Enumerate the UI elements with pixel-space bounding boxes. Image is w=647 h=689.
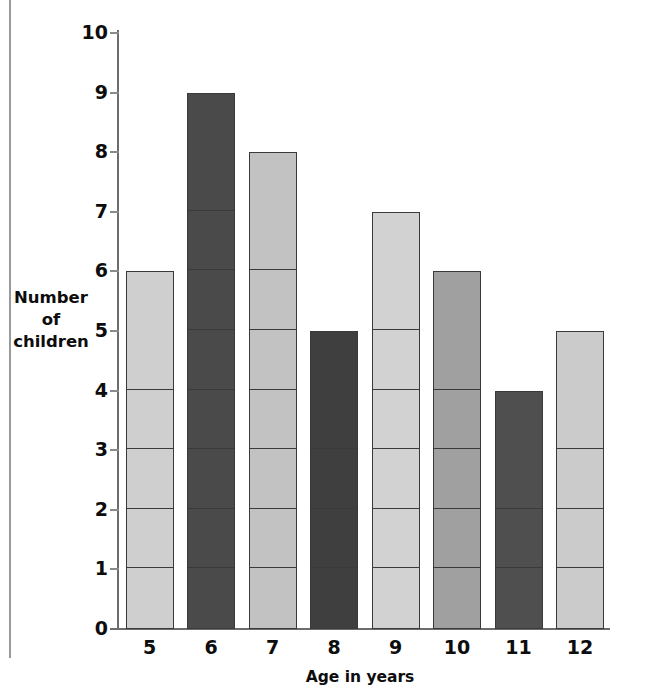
x-axis-tick-label: 9 <box>366 638 426 657</box>
x-axis-tick-label: 11 <box>489 638 549 657</box>
bar-unit-segment <box>127 568 173 628</box>
bar-unit-segment <box>373 270 419 330</box>
y-axis-title: Numberofchildren <box>8 287 94 352</box>
bar-unit-segment <box>557 449 603 509</box>
bar-unit-segment <box>188 449 234 509</box>
x-axis-tick-label: 6 <box>181 638 241 657</box>
bar-unit-segment <box>373 330 419 390</box>
bar-unit-segment <box>188 330 234 390</box>
y-axis-tick <box>110 330 119 332</box>
y-axis-tick-label-wrap: 9 <box>68 93 108 94</box>
y-axis-tick-label: 8 <box>74 142 108 161</box>
bar-unit-segment <box>311 449 357 509</box>
bar <box>126 271 174 629</box>
y-axis-title-line: Number <box>8 287 94 309</box>
bar-unit-segment <box>373 509 419 569</box>
y-axis-tick <box>110 390 119 392</box>
bar-unit-segment <box>373 568 419 628</box>
bar <box>372 212 420 629</box>
bar-unit-segment <box>250 151 296 211</box>
y-axis-tick-label: 4 <box>74 381 108 400</box>
y-axis-tick-label-wrap: 10 <box>68 33 108 34</box>
y-axis-title-line: children <box>8 331 94 353</box>
bar <box>187 93 235 629</box>
y-axis-tick-label-wrap: 3 <box>68 450 108 451</box>
bar-unit-segment <box>250 390 296 450</box>
x-axis-title: Age in years <box>110 668 610 686</box>
bar-unit-segment <box>434 509 480 569</box>
bar-unit-segment <box>188 509 234 569</box>
bar-unit-segment <box>188 270 234 330</box>
y-axis-tick-label-wrap: 7 <box>68 212 108 213</box>
x-axis-tick-label: 10 <box>427 638 487 657</box>
bar-unit-segment <box>188 151 234 211</box>
y-axis-tick-label-wrap: 8 <box>68 152 108 153</box>
y-axis-tick-label: 10 <box>74 23 108 42</box>
bar-unit-segment <box>127 270 173 330</box>
y-axis-tick-label: 7 <box>74 202 108 221</box>
bar-unit-segment <box>127 330 173 390</box>
bar <box>249 152 297 629</box>
bar-unit-segment <box>496 390 542 450</box>
y-axis-tick-label-wrap: 6 <box>68 271 108 272</box>
bar-unit-segment <box>250 449 296 509</box>
bar-unit-segment <box>127 509 173 569</box>
bar <box>495 391 543 629</box>
bar-chart-plot-area: 012345678910 Numberofchildren 5678910111… <box>0 0 647 689</box>
bar-unit-segment <box>188 92 234 152</box>
y-axis-tick <box>110 270 119 272</box>
y-axis-title-line: of <box>8 309 94 331</box>
y-axis-tick-label: 3 <box>74 440 108 459</box>
bar <box>556 331 604 629</box>
y-axis-tick <box>110 151 119 153</box>
y-axis-tick-label: 0 <box>74 619 108 638</box>
bar-unit-segment <box>127 449 173 509</box>
y-axis-tick-label-wrap: 4 <box>68 391 108 392</box>
bar-unit-segment <box>250 509 296 569</box>
bar <box>310 331 358 629</box>
chart-page: 012345678910 Numberofchildren 5678910111… <box>0 0 647 689</box>
y-axis-tick-label: 1 <box>74 559 108 578</box>
bar-unit-segment <box>250 270 296 330</box>
bar-unit-segment <box>188 211 234 271</box>
bar-unit-segment <box>311 509 357 569</box>
bar-unit-segment <box>250 568 296 628</box>
y-axis-tick <box>110 568 119 570</box>
bar-unit-segment <box>496 449 542 509</box>
y-axis-tick-label: 9 <box>74 83 108 102</box>
y-axis-tick-label: 6 <box>74 261 108 280</box>
bar-unit-segment <box>434 449 480 509</box>
bar-unit-segment <box>250 330 296 390</box>
bar-unit-segment <box>311 568 357 628</box>
bar-unit-segment <box>496 568 542 628</box>
y-axis-tick-label-wrap: 1 <box>68 569 108 570</box>
bar-unit-segment <box>557 330 603 390</box>
y-axis-tick-label-wrap: 0 <box>68 629 108 630</box>
bar-unit-segment <box>434 330 480 390</box>
bar-unit-segment <box>373 449 419 509</box>
bar-unit-segment <box>188 568 234 628</box>
y-axis-tick <box>110 449 119 451</box>
x-axis-tick-label: 12 <box>550 638 610 657</box>
bar-unit-segment <box>557 509 603 569</box>
bar-unit-segment <box>373 390 419 450</box>
bar-unit-segment <box>434 568 480 628</box>
bar-unit-segment <box>311 330 357 390</box>
y-axis-tick-label-wrap: 2 <box>68 510 108 511</box>
bar-unit-segment <box>127 390 173 450</box>
y-axis-tick <box>110 92 119 94</box>
bar-unit-segment <box>557 390 603 450</box>
bar-unit-segment <box>496 509 542 569</box>
bar-unit-segment <box>557 568 603 628</box>
bar-unit-segment <box>373 211 419 271</box>
bar-unit-segment <box>250 211 296 271</box>
bar-unit-segment <box>188 390 234 450</box>
bar-unit-segment <box>434 270 480 330</box>
bar-unit-segment <box>434 390 480 450</box>
x-axis-tick-label: 8 <box>304 638 364 657</box>
y-axis-tick <box>110 211 119 213</box>
y-axis-tick-label: 2 <box>74 500 108 519</box>
x-axis-tick-label: 7 <box>243 638 303 657</box>
bar <box>433 271 481 629</box>
bar-unit-segment <box>311 390 357 450</box>
